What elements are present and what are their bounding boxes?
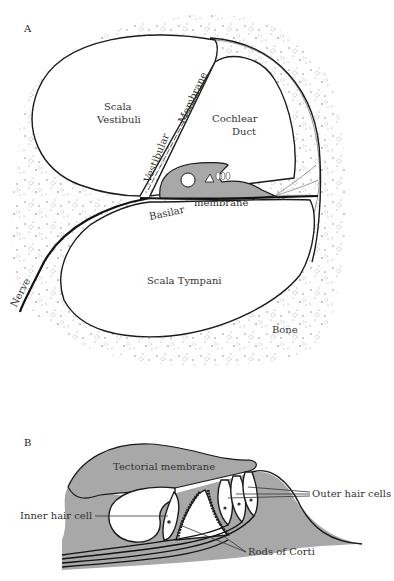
label-inner-hair-cell: Inner hair cell (20, 510, 92, 521)
hair-cells-a (216, 172, 230, 180)
inner-hair-cell-nucleus (167, 520, 171, 524)
panel-b-label: B (24, 437, 31, 448)
label-scala-tympani: Scala Tympani (147, 275, 222, 286)
label-bone: Bone (272, 324, 298, 335)
cochlea-diagram: A (0, 0, 394, 581)
label-cochlear-duct-2: Duct (232, 126, 256, 137)
label-rods-of-corti: Rods of Corti (248, 546, 315, 557)
label-scala-vestibuli-2: Vestibuli (96, 114, 141, 125)
panel-a-label: A (23, 23, 32, 34)
panel-a: A (8, 15, 346, 366)
inner-sulcus-a (181, 173, 195, 187)
label-scala-vestibuli-1: Scala (104, 101, 132, 112)
label-tectorial-membrane: Tectorial membrane (113, 461, 215, 472)
label-outer-hair-cells: Outer hair cells (312, 488, 391, 499)
panel-b: B (20, 437, 391, 570)
label-cochlear-duct-1: Cochlear (212, 113, 258, 124)
label-basilar-membrane: membrane (194, 197, 248, 208)
